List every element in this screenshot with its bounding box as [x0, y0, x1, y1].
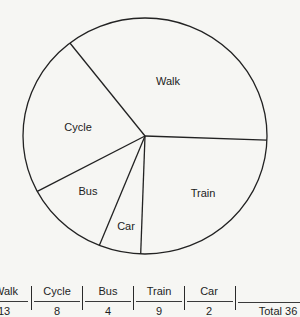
table-header-bus: Bus	[99, 285, 118, 297]
slice-label-bus: Bus	[79, 185, 98, 197]
table-value-car: 2	[206, 305, 212, 317]
slice-label-walk: Walk	[156, 75, 180, 87]
pie-spoke	[145, 136, 267, 140]
table-rule	[0, 301, 28, 302]
pie-spokes	[37, 43, 267, 254]
table-header-cycle: Cycle	[43, 285, 71, 297]
slice-label-cycle: Cycle	[64, 121, 92, 133]
table-rule	[85, 301, 131, 302]
table-rule	[187, 301, 233, 302]
table-rule	[238, 302, 300, 303]
table-value-bus: 4	[105, 305, 111, 317]
pie-chart	[0, 0, 300, 270]
table-divider	[235, 286, 236, 310]
slice-label-car: Car	[117, 220, 135, 232]
table-rule	[34, 301, 80, 302]
table-divider	[82, 286, 83, 310]
pie-spoke	[141, 136, 145, 254]
table-divider	[133, 286, 134, 310]
table-value-cycle: 8	[54, 305, 60, 317]
pie-spoke	[37, 136, 145, 191]
table-value-walk: 13	[0, 305, 10, 317]
table-value-train: 9	[156, 305, 162, 317]
table-header-car: Car	[200, 285, 218, 297]
table-header-train: Train	[147, 285, 172, 297]
table-divider	[184, 286, 185, 310]
table-header-walk: Walk	[0, 285, 18, 297]
table-rule	[136, 301, 182, 302]
table-divider	[31, 286, 32, 310]
table-total: Total 36	[259, 305, 298, 317]
slice-label-train: Train	[191, 187, 216, 199]
